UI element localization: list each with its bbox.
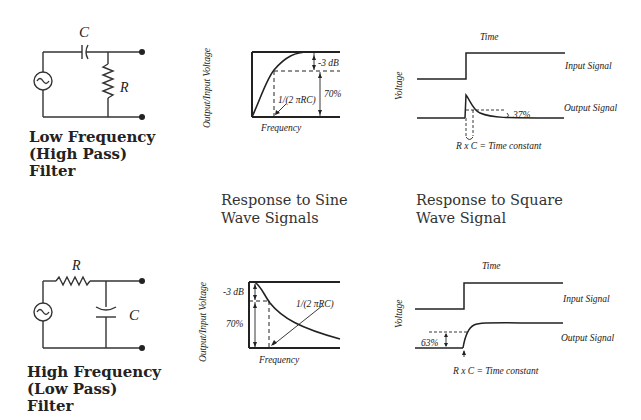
x-axis-label: Frequency [260, 123, 302, 133]
db-label: -3 dB [318, 58, 339, 68]
high-pass-sine-response-plot: Output/Input Voltage -3 dB 70% 1/(2 πRC)… [190, 0, 380, 180]
pct-label: 70% [324, 89, 342, 99]
time-constant-label: R x C = Time constant [452, 366, 539, 376]
y-axis-label: Output/Input Voltage [198, 282, 208, 362]
sine-caption: Response to Sine Wave Signals [221, 191, 348, 227]
time-constant-label: R x C = Time constant [455, 141, 542, 151]
input-signal-label: Input Signal [562, 294, 610, 304]
y-axis-label: Voltage [394, 72, 404, 101]
input-signal-trace [417, 53, 565, 79]
output-signal-trace [463, 323, 563, 348]
high-pass-square-response-plot: Time Voltage 37% Input Signal Output Sig… [380, 0, 641, 180]
output-signal-label: Output Signal [561, 333, 614, 343]
x-axis-label: Frequency [258, 355, 300, 365]
db-label: -3 dB [223, 287, 244, 297]
time-label: Time [482, 261, 500, 271]
output-signal-label: Output Signal [564, 103, 617, 113]
high-pass-title: Low Frequency (High Pass) Filter [29, 129, 155, 180]
low-pass-sine-response-plot: Output/Input Voltage -3 dB 70% 1/(2 πRC)… [190, 240, 380, 420]
input-signal-label: Input Signal [564, 61, 612, 71]
cutoff-label: 1/(2 πRC) [296, 299, 334, 310]
pct-label: 70% [226, 319, 244, 329]
low-pass-title: High Frequency (Low Pass) Filter [27, 364, 161, 415]
resistor-icon [56, 277, 90, 285]
terminal-dot [139, 49, 145, 55]
terminal-dot [139, 114, 145, 120]
cutoff-label: 1/(2 πRC) [278, 95, 316, 106]
high-pass-circuit: C R [0, 0, 180, 130]
capacitor-icon [96, 307, 116, 310]
response-curve [252, 52, 308, 117]
pct-label: 63% [421, 338, 439, 348]
terminal-dot [139, 278, 145, 284]
resistor-label: R [71, 258, 81, 273]
time-label: Time [480, 32, 498, 42]
low-pass-schematic: R C [0, 240, 180, 360]
y-axis-label: Output/Input Voltage [202, 48, 212, 128]
low-pass-circuit: R C [0, 240, 180, 360]
capacitor-label: C [79, 24, 90, 40]
response-curve [254, 282, 340, 339]
high-pass-schematic: C R [0, 0, 180, 130]
capacitor-label: C [129, 307, 140, 323]
square-caption: Response to Square Wave Signal [416, 191, 563, 227]
low-pass-square-response-plot: Time Voltage 63% Input Signal Output Sig… [380, 240, 641, 420]
input-signal-trace [415, 283, 563, 309]
y-axis-label: Voltage [394, 300, 404, 329]
pct-label: 37% [512, 110, 531, 120]
terminal-dot [139, 345, 145, 351]
resistor-icon [103, 64, 113, 98]
resistor-label: R [119, 80, 129, 95]
